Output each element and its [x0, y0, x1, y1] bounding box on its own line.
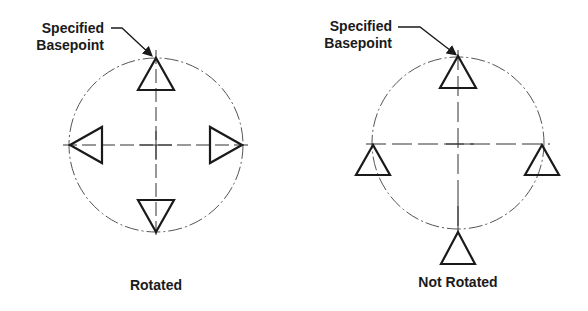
callout-line-1: Specified: [22, 20, 104, 37]
triangle-left-icon: [356, 145, 390, 175]
callout-line-2: Basepoint: [310, 35, 392, 52]
callout-line-1: Specified: [310, 18, 392, 35]
not-rotated-caption: Not Rotated: [398, 274, 518, 291]
triangle-bottom-icon: [441, 232, 475, 264]
rotated-caption: Rotated: [106, 277, 206, 294]
basepoint-leader-arrow: [111, 28, 151, 55]
rotated-diagram: [63, 28, 250, 240]
rotated-basepoint-callout: Specified Basepoint: [22, 20, 104, 54]
not-rotated-basepoint-callout: Specified Basepoint: [310, 18, 392, 52]
not-rotated-diagram: [356, 27, 559, 264]
callout-line-2: Basepoint: [22, 37, 104, 54]
basepoint-leader-arrow: [398, 27, 455, 54]
